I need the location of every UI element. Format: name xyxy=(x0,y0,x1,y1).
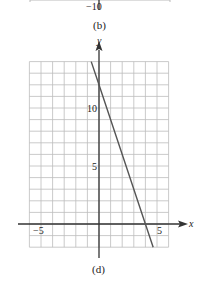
y-tick-5: 5 xyxy=(92,162,97,172)
prev-tick-label: −10 xyxy=(86,2,102,12)
y-axis-label: y xyxy=(97,36,101,46)
chart-canvas xyxy=(0,0,207,291)
prev-caption: (b) xyxy=(93,20,106,30)
y-tick-10: 10 xyxy=(87,104,97,114)
x-tick-5: 5 xyxy=(157,226,162,236)
x-axis-label: x xyxy=(189,219,193,229)
x-tick-neg5: −5 xyxy=(33,226,44,236)
chart-caption: (d) xyxy=(92,264,105,274)
